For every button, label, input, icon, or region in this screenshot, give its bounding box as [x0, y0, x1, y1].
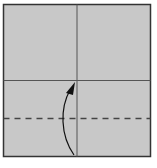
origami-diagram — [0, 0, 157, 168]
